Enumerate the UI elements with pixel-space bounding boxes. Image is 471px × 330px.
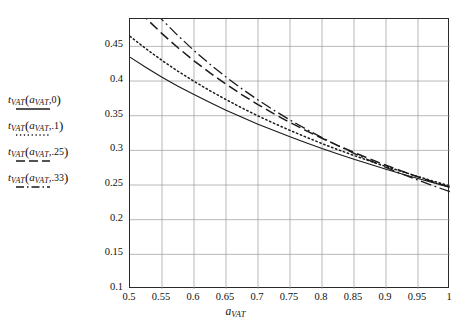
x-tick-label: 0.85 [336, 291, 370, 302]
x-tick-label: 0.75 [272, 291, 306, 302]
curve-2 [130, 19, 450, 187]
x-axis-title-subscript: VAT [231, 309, 245, 319]
legend-a-subscript-3: VAT [35, 176, 49, 185]
legend-a-subscript-1: VAT [35, 124, 49, 133]
legend-close-paren-0: ) [57, 92, 61, 107]
x-tick-label: 0.95 [400, 291, 434, 302]
legend-line-sample-dashed [16, 159, 50, 163]
legend-a-subscript-2: VAT [35, 150, 49, 159]
legend-close-paren-3: ) [64, 170, 68, 185]
legend-t-subscript-1: VAT [11, 124, 25, 133]
y-tick-label: 0.3 [93, 142, 123, 153]
legend-param-1: .1 [52, 120, 60, 131]
legend-t-subscript-0: VAT [11, 98, 25, 107]
curve-1 [130, 36, 450, 186]
plot-area [129, 18, 449, 288]
data-curves [130, 19, 450, 289]
legend-line-sample-solid [16, 107, 50, 111]
x-tick-label: 0.7 [240, 291, 274, 302]
x-axis-title: aVAT [0, 305, 471, 319]
x-tick-label: 0.55 [144, 291, 178, 302]
y-tick-label: 0.15 [93, 246, 123, 257]
x-tick-label: 0.6 [176, 291, 210, 302]
legend-close-paren-1: ) [59, 118, 63, 133]
x-tick-label: 0.5 [112, 291, 146, 302]
chart-root: tVAT(aVAT,0) tVAT(aVAT,.1) tVAT(aVAT,.25… [0, 0, 471, 330]
x-tick-label: 0.65 [208, 291, 242, 302]
x-tick-label: 0.9 [368, 291, 402, 302]
legend-param-3: .33 [52, 172, 65, 183]
legend-t-subscript-2: VAT [11, 150, 25, 159]
legend-t-subscript-3: VAT [11, 176, 25, 185]
x-tick-label: 0.8 [304, 291, 338, 302]
curve-3 [130, 19, 450, 192]
x-tick-label: 1 [432, 291, 466, 302]
legend-line-sample-dotted [16, 133, 50, 137]
legend-close-paren-2: ) [64, 144, 68, 159]
curve-0 [130, 57, 450, 187]
y-tick-label: 0.4 [93, 73, 123, 84]
y-tick-label: 0.2 [93, 212, 123, 223]
y-tick-label: 0.25 [93, 177, 123, 188]
y-tick-label: 0.35 [93, 108, 123, 119]
legend-a-subscript-0: VAT [35, 98, 49, 107]
legend-param-2: .25 [52, 146, 65, 157]
legend-line-sample-dashdot [16, 185, 50, 189]
legend-item-1: tVAT(aVAT,.1) [8, 118, 120, 144]
y-tick-label: 0.45 [93, 38, 123, 49]
